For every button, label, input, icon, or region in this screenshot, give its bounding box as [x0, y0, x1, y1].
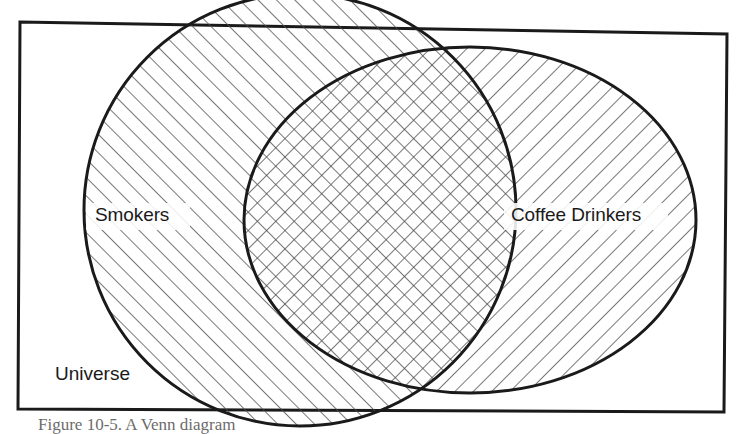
venn-figure: Smokers Coffee Drinkers Universe Figure …	[0, 0, 746, 434]
figure-caption-strip: Figure 10-5. A Venn diagram	[0, 418, 746, 434]
figure-caption: Figure 10-5. A Venn diagram	[38, 418, 236, 434]
coffee-drinkers-label: Coffee Drinkers	[511, 204, 641, 225]
venn-diagram-canvas: Smokers Coffee Drinkers Universe	[0, 0, 746, 434]
universe-label: Universe	[55, 363, 130, 384]
smokers-label: Smokers	[95, 204, 169, 225]
